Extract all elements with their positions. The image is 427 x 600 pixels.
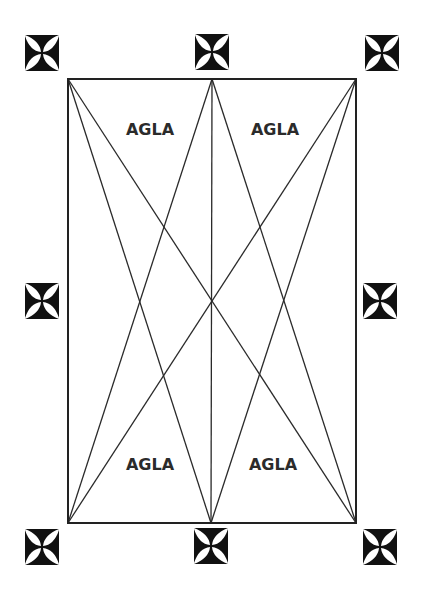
cross-pattee-icon [194,528,228,564]
cross-pattee-icon [25,35,59,71]
cross-pattee-icon [363,529,397,565]
agla-seal-diagram: AGLAAGLAAGLAAGLA [0,0,427,600]
label-top-right: AGLA [251,120,300,139]
cross-pattee-icon [25,529,59,565]
cross-pattee-icon [195,34,229,70]
cross-pattee-icon [365,35,399,71]
cross-pattee-icon [363,283,397,319]
label-top-left: AGLA [126,120,175,139]
line-network [68,79,356,523]
cross-pattee-icon [25,283,59,319]
label-bottom-right: AGLA [249,455,298,474]
label-bottom-left: AGLA [126,455,175,474]
label-group: AGLAAGLAAGLAAGLA [126,120,300,474]
line-vertical-center [211,79,212,523]
